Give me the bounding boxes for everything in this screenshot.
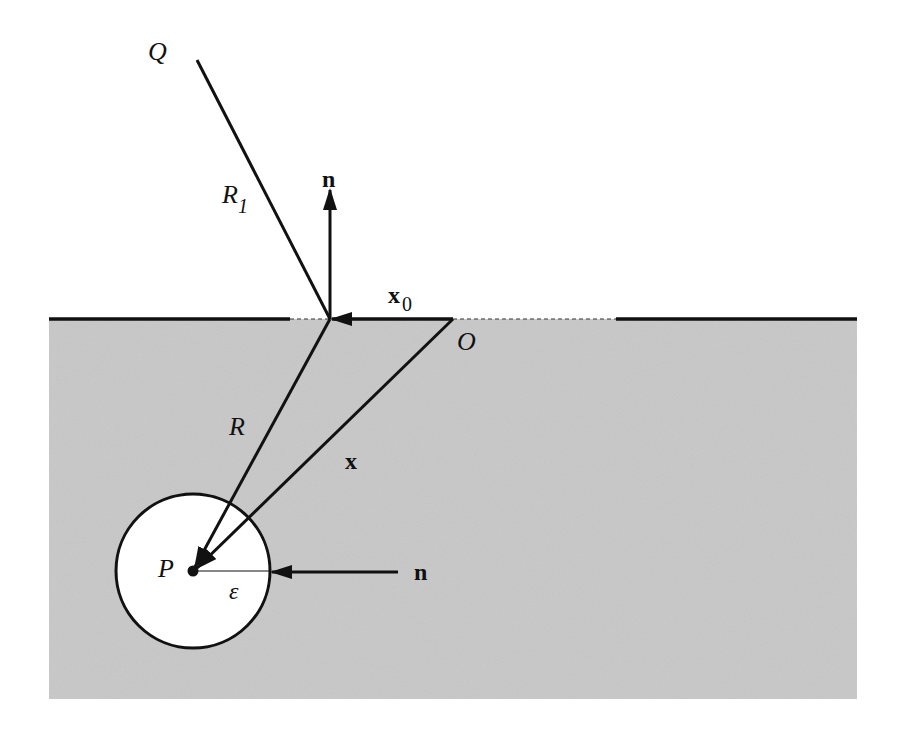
label-R1: R1 — [221, 180, 248, 217]
label-P: P — [157, 554, 174, 583]
label-x: x — [345, 448, 357, 474]
label-x0: x0 — [388, 282, 412, 315]
line-R1 — [197, 60, 330, 319]
label-Q: Q — [148, 37, 167, 66]
label-R: R — [228, 412, 245, 441]
diagram-canvas: Q R1 n x0 O R x P ε n — [0, 0, 898, 739]
label-n-right: n — [414, 559, 427, 585]
label-epsilon: ε — [229, 578, 239, 604]
point-P — [188, 566, 199, 577]
label-n-top: n — [322, 166, 335, 192]
label-O: O — [457, 327, 476, 356]
